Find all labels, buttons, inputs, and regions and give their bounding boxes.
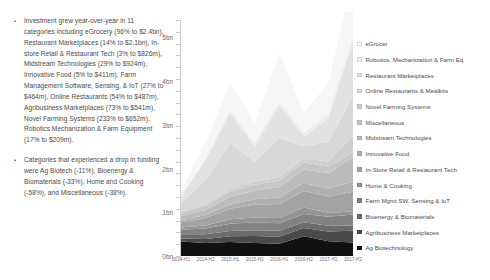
y-axis-tick	[176, 209, 180, 210]
legend-label: Innovative Food	[366, 150, 410, 157]
stacked-area-chart: 0bn1bn2bn3bn4bn5bn 2014-H12014-H22015-H1…	[150, 12, 360, 277]
legend-item[interactable]: Robotics, Mechanization & Farm Eq	[357, 52, 489, 68]
y-axis-tick	[176, 256, 180, 257]
legend-label: Restaurant Marketplaces	[366, 72, 434, 79]
legend-label: Miscellaneous	[366, 119, 405, 126]
legend-item[interactable]: Novel Farming Systems	[357, 99, 489, 115]
y-axis-tick	[176, 44, 180, 45]
y-axis-tick	[176, 55, 180, 56]
y-axis-tick	[176, 32, 180, 33]
y-axis-tick	[176, 114, 180, 115]
legend-label: Novel Farming Systems	[366, 103, 431, 110]
x-axis-tick-label: 2015-H1	[221, 257, 239, 262]
y-axis-tick	[176, 185, 180, 186]
legend-item[interactable]: Ag Biotechnology	[357, 240, 489, 256]
y-axis-tick	[176, 173, 180, 174]
legend-item[interactable]: In-Store Retail & Restaurant Tech	[357, 162, 489, 178]
legend-item[interactable]: Restaurant Marketplaces	[357, 67, 489, 83]
x-axis-labels: 2014-H12014-H22015-H12015-H22016-H12016-…	[181, 257, 353, 271]
y-axis-tick	[176, 79, 180, 80]
legend-swatch-icon	[357, 183, 362, 188]
legend-item[interactable]: Online Restaurants & Mealkits	[357, 83, 489, 99]
bullet-item: • Investment grew year-over-year in 11 c…	[14, 16, 166, 146]
legend-swatch-icon	[357, 57, 362, 62]
legend-item[interactable]: Bioenergy & Biomaterials	[357, 209, 489, 225]
legend-swatch-icon	[357, 42, 362, 47]
legend-swatch-icon	[357, 120, 362, 125]
legend-swatch-icon	[357, 198, 362, 203]
legend-label: Robotics, Mechanization & Farm Eq	[366, 56, 464, 63]
y-axis-tick	[176, 197, 180, 198]
legend-label: In-Store Retail & Restaurant Tech	[366, 166, 457, 173]
legend-item[interactable]: Agribusiness Marketplaces	[357, 224, 489, 240]
y-axis-labels: 0bn1bn2bn3bn4bn5bn	[150, 12, 176, 258]
y-axis-tick	[176, 103, 180, 104]
slide-root: • Investment grew year-over-year in 11 c…	[0, 0, 490, 280]
legend-swatch-icon	[357, 151, 362, 156]
x-axis-tick-label: 2015-H2	[246, 257, 264, 262]
bullet-text: Investment grew year-over-year in 11 cat…	[24, 16, 166, 146]
legend-item[interactable]: Miscellaneous	[357, 114, 489, 130]
y-axis-tick	[176, 244, 180, 245]
legend-item[interactable]: eGrocer	[357, 36, 489, 52]
bullet-text: Categories that experienced a drop in fu…	[24, 155, 166, 198]
legend-label: Agribusiness Marketplaces	[366, 229, 439, 236]
chart-legend: eGrocerRobotics, Mechanization & Farm Eq…	[357, 36, 489, 256]
y-axis-tick	[176, 126, 180, 127]
y-axis-tick	[176, 162, 180, 163]
legend-label: Online Restaurants & Mealkits	[366, 87, 449, 94]
x-axis-tick-label: 2017-H2	[344, 257, 362, 262]
legend-swatch-icon	[357, 214, 362, 219]
legend-label: Midstream Technologies	[366, 134, 432, 141]
y-axis-tick-label: 5bn	[162, 34, 173, 41]
y-axis-tick	[176, 91, 180, 92]
bullet-marker-icon: •	[14, 155, 24, 198]
legend-swatch-icon	[357, 136, 362, 141]
bullet-marker-icon: •	[14, 16, 24, 146]
y-axis-tick	[176, 221, 180, 222]
legend-item[interactable]: Midstream Technologies	[357, 130, 489, 146]
commentary-text-block: • Investment grew year-over-year in 11 c…	[14, 16, 166, 208]
legend-swatch-icon	[357, 167, 362, 172]
y-axis-tick-label: 3bn	[162, 121, 173, 128]
x-axis-tick-label: 2016-H1	[270, 257, 288, 262]
chart-plot-area	[181, 12, 353, 256]
legend-label: Farm Mgmt SW, Sensing & IoT	[366, 197, 451, 204]
y-axis-tick-label: 4bn	[162, 78, 173, 85]
y-axis-tick	[176, 138, 180, 139]
y-axis-tick-label: 1bn	[162, 209, 173, 216]
y-axis-tick	[176, 67, 180, 68]
legend-swatch-icon	[357, 89, 362, 94]
x-axis-tick-label: 2016-H2	[295, 257, 313, 262]
legend-label: Home & Cooking	[366, 182, 412, 189]
legend-item[interactable]: Farm Mgmt SW, Sensing & IoT	[357, 193, 489, 209]
legend-item[interactable]: Home & Cooking	[357, 177, 489, 193]
legend-swatch-icon	[357, 246, 362, 251]
legend-label: Bioenergy & Biomaterials	[366, 213, 435, 220]
y-axis-tick-label: 2bn	[162, 165, 173, 172]
legend-label: Ag Biotechnology	[366, 244, 414, 251]
legend-label: eGrocer	[366, 40, 388, 47]
legend-swatch-icon	[357, 104, 362, 109]
legend-item[interactable]: Innovative Food	[357, 146, 489, 162]
x-axis-tick-label: 2014-H1	[172, 257, 190, 262]
y-axis-tick	[176, 20, 180, 21]
bullet-item: • Categories that experienced a drop in …	[14, 155, 166, 198]
y-axis-tick	[176, 150, 180, 151]
legend-swatch-icon	[357, 230, 362, 235]
x-axis-tick-label: 2017-H1	[319, 257, 337, 262]
x-axis-tick-label: 2014-H2	[197, 257, 215, 262]
legend-swatch-icon	[357, 73, 362, 78]
y-axis-tick	[176, 232, 180, 233]
